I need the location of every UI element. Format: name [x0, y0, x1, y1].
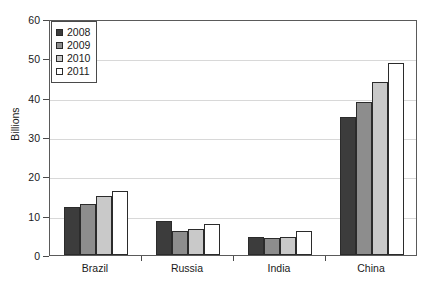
bar — [264, 238, 280, 255]
y-tick-label: 10 — [14, 212, 40, 222]
y-tick-label: 30 — [14, 133, 40, 143]
bar — [340, 117, 356, 255]
legend-swatch-icon — [56, 68, 63, 75]
bar — [64, 207, 80, 255]
x-tick-label: China — [331, 262, 411, 274]
y-tick-label: 20 — [14, 172, 40, 182]
bar — [296, 231, 312, 255]
y-tick-label: 50 — [14, 54, 40, 64]
legend-label: 2008 — [67, 27, 90, 38]
x-tick-mark — [325, 256, 326, 261]
bar — [248, 237, 264, 255]
x-tick-label: Russia — [147, 262, 227, 274]
legend-label: 2010 — [67, 53, 90, 64]
x-tick-mark — [233, 256, 234, 261]
bar — [188, 229, 204, 255]
legend-swatch-icon — [56, 42, 63, 49]
bar — [372, 82, 388, 255]
plot-area — [49, 20, 417, 256]
legend-label: 2009 — [67, 40, 90, 51]
y-tick-label: 0 — [14, 251, 40, 261]
x-tick-label: Brazil — [55, 262, 135, 274]
legend-item[interactable]: 2008 — [56, 26, 90, 39]
bars-layer — [50, 21, 416, 255]
bar — [156, 221, 172, 255]
y-tick-label: 40 — [14, 94, 40, 104]
legend-item[interactable]: 2011 — [56, 65, 90, 78]
bar — [172, 231, 188, 255]
y-tick-mark — [43, 256, 49, 257]
bar — [80, 204, 96, 255]
bar — [96, 196, 112, 255]
bar — [356, 102, 372, 255]
legend-item[interactable]: 2010 — [56, 52, 90, 65]
legend-label: 2011 — [67, 66, 90, 77]
legend-swatch-icon — [56, 55, 63, 62]
bar — [204, 224, 220, 255]
bar — [112, 191, 128, 255]
x-tick-label: India — [239, 262, 319, 274]
legend-swatch-icon — [56, 29, 63, 36]
bar — [388, 63, 404, 255]
bar — [280, 237, 296, 255]
y-tick-label: 60 — [14, 15, 40, 25]
bar-chart: Billions 0102030405060 BrazilRussiaIndia… — [0, 0, 432, 285]
x-tick-mark — [141, 256, 142, 261]
y-axis-title: Billions — [9, 79, 21, 169]
legend-item[interactable]: 2009 — [56, 39, 90, 52]
legend: 2008200920102011 — [51, 21, 97, 83]
